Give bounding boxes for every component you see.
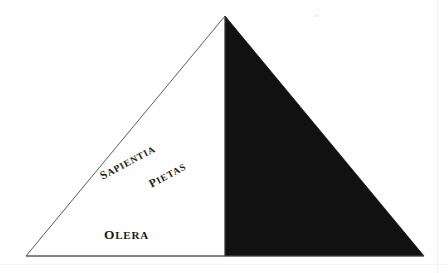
open-left-half: [26, 16, 225, 256]
label-olera-initial: O: [104, 227, 115, 242]
triangle-figure: SAPIENTIA PIETAS OLERA: [0, 0, 448, 273]
shaded-right-half: [225, 16, 424, 256]
label-olera-rest: LERA: [115, 229, 149, 241]
triangle-svg: [0, 0, 448, 273]
label-olera: OLERA: [104, 228, 149, 241]
scanned-figure-page: SAPIENTIA PIETAS OLERA: [0, 0, 448, 273]
